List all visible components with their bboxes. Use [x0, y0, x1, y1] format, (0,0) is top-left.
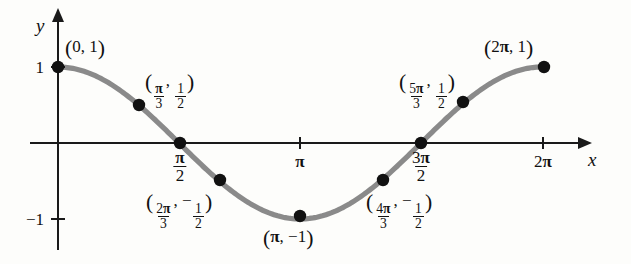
fraction: 12 [193, 202, 204, 231]
data-point [133, 99, 145, 111]
x-tick-label: 3π2 [409, 149, 433, 185]
cosine-graph-figure: y x π2π3π22π1−1 (0, 1)(π3, 12)(2π3, −12)… [0, 0, 631, 264]
fraction: 4π3 [374, 202, 392, 231]
point-label: (5π3, 12) [399, 72, 455, 111]
data-point [52, 61, 64, 73]
fraction: 5π3 [407, 82, 425, 111]
data-point [294, 210, 306, 222]
y-axis-label: y [36, 16, 44, 35]
fraction: 12 [436, 82, 447, 111]
y-tick-label: −1 [26, 211, 44, 228]
data-point [214, 174, 226, 186]
y-tick-label: 1 [36, 59, 45, 76]
fraction: 12 [413, 202, 424, 231]
fraction: 12 [175, 82, 186, 111]
data-point [538, 61, 550, 73]
point-label: (π, −1) [263, 228, 313, 247]
point-label: (2π, 1) [484, 38, 533, 57]
x-tick-label: 2π [534, 153, 552, 170]
x-tick-label: π [295, 153, 304, 170]
point-label: (2π3, −12) [146, 192, 212, 231]
point-label: (0, 1) [65, 38, 105, 57]
data-point [377, 174, 389, 186]
y-axis-arrowhead [52, 8, 64, 22]
point-label: (π3, 12) [145, 72, 194, 111]
fraction: 2π3 [154, 202, 172, 231]
point-label: (4π3, −12) [366, 192, 432, 231]
x-tick-label: π2 [172, 149, 187, 185]
fraction: π3 [153, 82, 164, 111]
x-axis-label: x [588, 150, 596, 169]
data-point [457, 96, 469, 108]
x-axis-arrowhead [578, 137, 592, 149]
